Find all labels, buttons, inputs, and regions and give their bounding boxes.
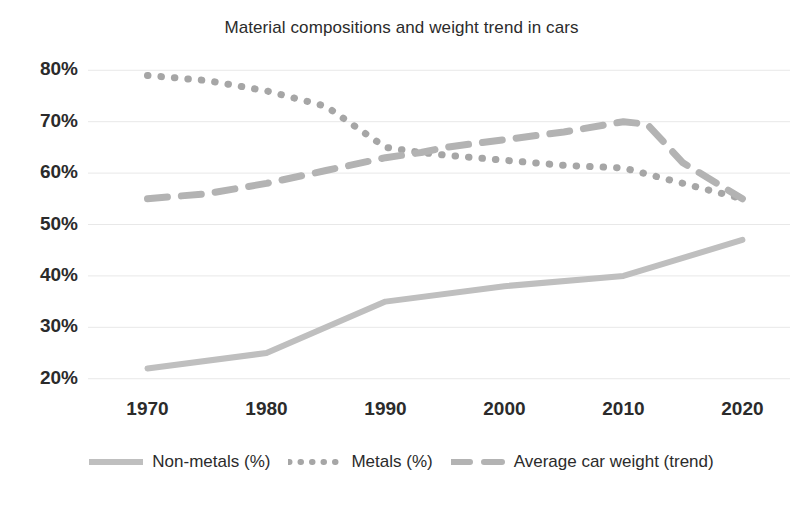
x-axis-tick-label: 2000 [449,398,559,420]
x-axis-tick-label: 1980 [211,398,321,420]
legend-label: Average car weight (trend) [514,452,714,472]
legend-label: Non-metals (%) [152,452,270,472]
series-layer [147,75,742,368]
dotted-line-swatch [288,456,342,468]
x-axis-tick-label: 1990 [330,398,440,420]
chart-container: Material compositions and weight trend i… [0,0,803,508]
y-axis-tick-label: 50% [8,213,78,235]
plot-area [0,0,803,508]
x-axis-tick-label: 2020 [687,398,797,420]
dashed-line-swatch [451,456,505,468]
y-axis-tick-label: 40% [8,264,78,286]
gridlines [88,70,790,378]
series-line [147,75,742,198]
y-axis-tick-label: 70% [8,110,78,132]
y-axis-tick-label: 60% [8,161,78,183]
legend-entry[interactable]: Non-metals (%) [89,452,270,472]
y-axis-tick-label: 80% [8,58,78,80]
legend-entry[interactable]: Average car weight (trend) [451,452,714,472]
solid-line-swatch [89,456,143,468]
series-line [147,122,742,199]
chart-legend: Non-metals (%)Metals (%)Average car weig… [0,452,803,472]
legend-entry[interactable]: Metals (%) [288,452,432,472]
legend-label: Metals (%) [351,452,432,472]
series-line [147,240,742,369]
y-axis-tick-label: 20% [8,367,78,389]
y-axis-tick-label: 30% [8,315,78,337]
x-axis-tick-label: 2010 [568,398,678,420]
x-axis-tick-label: 1970 [92,398,202,420]
